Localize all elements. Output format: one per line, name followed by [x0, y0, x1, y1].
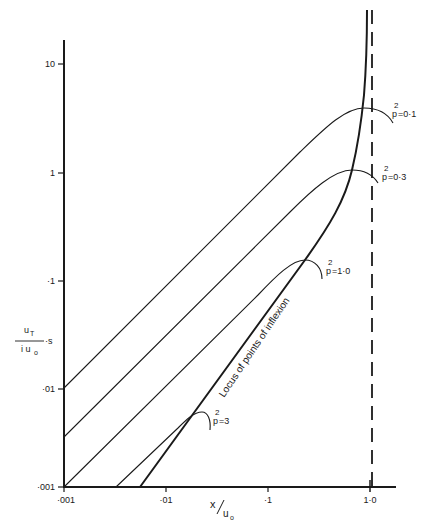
x-axis-label: x u o — [210, 498, 234, 521]
x-tick-label: ·01 — [159, 495, 172, 505]
x-axis-label-x: x — [210, 498, 216, 510]
label-rest: =1·0 — [332, 266, 350, 276]
label-p2-3: p 2 =3 — [213, 408, 229, 426]
label-p: p — [213, 416, 218, 426]
x-tick-labels: ·001 ·01 ·1 1·0 — [57, 495, 377, 505]
y-tick-label: 10 — [45, 59, 55, 69]
curve-p2-1.0 — [64, 260, 322, 487]
x-tick-label: ·001 — [57, 495, 75, 505]
label-p: p — [326, 266, 331, 276]
curve-p2-0.1 — [64, 108, 393, 388]
label-p: p — [382, 172, 387, 182]
x-tick-label: 1·0 — [363, 495, 376, 505]
y-axis-label: u T i u o ·s — [15, 325, 53, 356]
x-tick-label: ·1 — [264, 495, 272, 505]
curve-p2-3 — [116, 412, 210, 487]
x-axis-label-u: u — [223, 508, 229, 519]
chart: 10 1 ·1 ·01 ·001 ·001 ·01 ·1 1·0 x u o u… — [0, 0, 425, 530]
label-p2-1.0: p 2 =1·0 — [326, 258, 350, 276]
y-axis-label-den: i u — [21, 344, 31, 354]
y-tick-label: ·1 — [47, 276, 55, 286]
label-rest: =0·3 — [388, 172, 406, 182]
y-tick-label: 1 — [50, 168, 55, 178]
y-tick-label: ·001 — [37, 482, 55, 492]
y-tick-label: ·01 — [42, 384, 55, 394]
y-axis-label-num: u — [24, 325, 29, 335]
label-rest: =0·1 — [398, 109, 416, 119]
locus-annotation: Locus of points of inflexion — [217, 295, 292, 399]
y-axis-label-den-sub: o — [34, 349, 38, 356]
label-rest: =3 — [219, 416, 229, 426]
label-p2-0.1: p 2 =0·1 — [392, 101, 416, 119]
y-axis-label-suffix: ·s — [45, 336, 53, 346]
x-axis-label-o: o — [230, 514, 234, 521]
label-p2-0.3: p 2 =0·3 — [382, 164, 406, 182]
label-p: p — [392, 109, 397, 119]
y-tick-labels: 10 1 ·1 ·01 ·001 — [37, 59, 55, 492]
y-axis-label-num-sub: T — [30, 330, 35, 337]
